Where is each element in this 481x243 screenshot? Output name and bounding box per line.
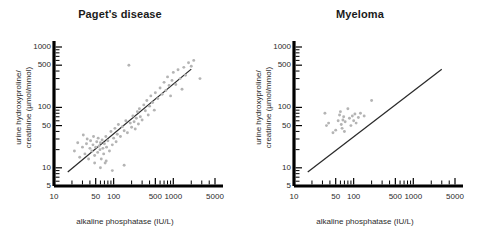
- regression-line: [68, 69, 192, 172]
- scatter-point: [145, 99, 148, 102]
- scatter-point: [138, 107, 141, 110]
- scatter-point: [121, 125, 124, 128]
- x-axis-tick-label: 5000: [435, 192, 475, 201]
- y-axis-title-line2: creatinine (µmol/mmol): [24, 31, 34, 184]
- scatter-point: [117, 123, 120, 126]
- scatter-point: [129, 122, 132, 125]
- scatter-point: [78, 156, 81, 159]
- scatter-point: [174, 83, 177, 86]
- scatter-point: [93, 162, 96, 165]
- scatter-point: [340, 123, 343, 126]
- scatter-point: [99, 148, 102, 151]
- scatter-point: [163, 81, 166, 84]
- scatter-point: [94, 146, 97, 149]
- scatter-point: [325, 124, 328, 127]
- y-axis-title-line1: urine hydroxyproline/: [254, 31, 264, 184]
- x-axis-tick-label: 100: [334, 192, 374, 201]
- scatter-points: [323, 99, 373, 134]
- scatter-point: [136, 110, 139, 113]
- scatter-point: [126, 131, 129, 134]
- scatter-point: [370, 99, 373, 102]
- scatter-point: [334, 129, 337, 132]
- x-axis-tick-label: 5000: [195, 192, 235, 201]
- x-axis-tick-label: 1000: [153, 192, 193, 201]
- scatter-point: [85, 142, 88, 145]
- scatter-point: [353, 112, 356, 115]
- scatter-point: [337, 119, 340, 122]
- scatter-point: [127, 64, 130, 67]
- scatter-point: [344, 120, 347, 123]
- plot-area-pagets: 105010050010005000510501005001000alkalin…: [0, 0, 240, 243]
- scatter-point: [148, 105, 151, 108]
- x-axis-title: alkaline phosphatase (IU/L): [20, 217, 230, 226]
- scatter-point: [166, 75, 169, 78]
- scatter-point: [82, 133, 85, 136]
- scatter-point: [363, 115, 366, 118]
- scatter-point: [90, 150, 93, 153]
- panel-pagets-disease: Paget's disease 105010050010005000510501…: [0, 0, 240, 243]
- scatter-point: [113, 127, 116, 130]
- scatter-point: [98, 145, 101, 148]
- scatter-point: [182, 66, 185, 69]
- plot-area-myeloma: 105010050010005000510501005001000alkalin…: [240, 0, 480, 243]
- scatter-point: [192, 59, 195, 62]
- scatter-point: [109, 130, 112, 133]
- scatter-point: [172, 71, 175, 74]
- scatter-point: [190, 65, 193, 68]
- panel-myeloma: Myeloma 10501005001000500051050100500100…: [240, 0, 480, 243]
- scatter-point: [164, 89, 167, 92]
- scatter-point: [156, 97, 159, 100]
- scatter-point: [154, 91, 157, 94]
- scatter-point: [92, 135, 95, 138]
- scatter-point: [99, 166, 102, 169]
- scatter-point: [105, 159, 108, 162]
- scatter-point: [348, 117, 351, 120]
- scatter-point: [341, 127, 344, 130]
- x-axis-tick-label: 10: [274, 192, 314, 201]
- scatter-point: [352, 119, 355, 122]
- scatter-point: [88, 147, 91, 150]
- x-axis-tick-label: 10: [34, 192, 74, 201]
- x-axis-title: alkaline phosphatase (IU/L): [260, 217, 470, 226]
- scatter-point: [105, 146, 108, 149]
- scatter-point: [100, 158, 103, 161]
- scatter-point: [323, 112, 326, 115]
- x-axis-tick-label: 1000: [393, 192, 433, 201]
- scatter-point: [115, 140, 118, 143]
- scatter-point: [119, 135, 122, 138]
- scatter-point: [144, 109, 147, 112]
- scatter-point: [87, 158, 90, 161]
- scatter-point: [95, 140, 98, 143]
- scatter-point: [346, 107, 349, 110]
- scatter-point: [135, 117, 138, 120]
- scatter-point: [73, 150, 76, 153]
- scatter-point: [116, 133, 119, 136]
- scatter-point: [108, 150, 111, 153]
- scatter-point: [177, 68, 180, 71]
- scatter-point: [89, 139, 92, 142]
- y-axis-title: urine hydroxyproline/creatinine (µmol/mm…: [14, 31, 34, 184]
- scatter-point: [168, 84, 171, 87]
- scatter-point: [359, 112, 362, 115]
- scatter-point: [104, 135, 107, 138]
- scatter-point: [76, 141, 79, 144]
- scatter-point: [111, 143, 114, 146]
- scatter-point: [81, 146, 84, 149]
- y-axis-title-line1: urine hydroxyproline/: [14, 31, 24, 184]
- scatter-point: [179, 77, 182, 80]
- scatter-point: [349, 124, 352, 127]
- scatter-point: [83, 152, 86, 155]
- x-axis-tick-label: 100: [94, 192, 134, 201]
- regression-line: [308, 69, 442, 172]
- scatter-point: [149, 94, 152, 97]
- scatter-point: [124, 119, 127, 122]
- scatter-point: [134, 127, 137, 130]
- scatter-point: [342, 115, 345, 118]
- scatter-point: [339, 110, 342, 113]
- scatter-point: [102, 152, 105, 155]
- scatter-point: [139, 115, 142, 118]
- scatter-point: [99, 141, 102, 144]
- scatter-point: [161, 93, 164, 96]
- scatter-point: [159, 86, 162, 89]
- scatter-point: [96, 151, 99, 154]
